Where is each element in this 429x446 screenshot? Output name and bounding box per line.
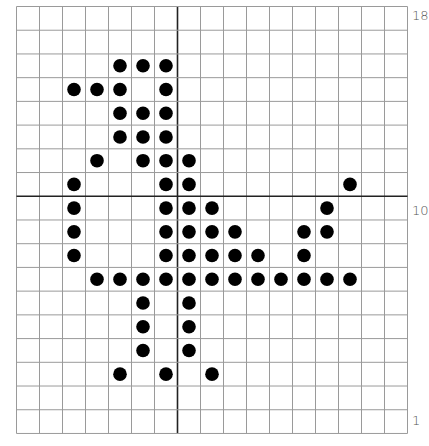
grid-dot <box>159 272 173 286</box>
grid-dot <box>182 154 196 168</box>
grid-dot <box>205 249 219 263</box>
grid-dot <box>159 59 173 73</box>
grid-dot <box>159 178 173 192</box>
grid-dot <box>90 154 104 168</box>
grid-dot <box>159 249 173 263</box>
grid-dot <box>67 178 81 192</box>
grid-dot <box>182 249 196 263</box>
grid-dot <box>182 272 196 286</box>
grid-dot <box>182 320 196 334</box>
dot-grid <box>16 6 409 436</box>
grid-dot <box>274 272 288 286</box>
grid-dot <box>67 83 81 97</box>
grid-dot <box>159 225 173 239</box>
grid-dot <box>90 272 104 286</box>
grid-dot <box>136 154 150 168</box>
grid-dot <box>90 83 104 97</box>
grid-dot <box>297 249 311 263</box>
grid-dot <box>136 296 150 310</box>
grid-dot <box>159 130 173 144</box>
grid-dot <box>297 272 311 286</box>
grid-dot <box>205 367 219 381</box>
grid-dot <box>320 225 334 239</box>
grid-dot <box>182 225 196 239</box>
grid-dot <box>136 130 150 144</box>
grid-dot <box>136 320 150 334</box>
grid-dot <box>113 83 127 97</box>
grid-dot <box>182 178 196 192</box>
row-label-bottom: 1 <box>412 414 420 427</box>
grid-dot <box>320 272 334 286</box>
grid-dot <box>228 225 242 239</box>
grid-dot <box>113 272 127 286</box>
grid-dot <box>251 272 265 286</box>
grid-dot <box>136 344 150 358</box>
grid-dot <box>228 272 242 286</box>
grid-dot <box>205 272 219 286</box>
grid-dot <box>297 225 311 239</box>
grid-dot <box>67 249 81 263</box>
grid-dot <box>113 367 127 381</box>
grid-dot <box>343 272 357 286</box>
grid-dot <box>113 59 127 73</box>
grid-dot <box>182 296 196 310</box>
grid-dot <box>182 201 196 215</box>
grid-dot <box>159 106 173 120</box>
grid-dot <box>113 106 127 120</box>
grid-dot <box>205 225 219 239</box>
grid-dot <box>159 154 173 168</box>
row-label-top: 18 <box>412 9 429 22</box>
grid-dot <box>67 225 81 239</box>
grid-dot <box>136 59 150 73</box>
grid-dot <box>136 106 150 120</box>
grid-dot <box>159 201 173 215</box>
grid-dot <box>159 367 173 381</box>
row-label-middle: 10 <box>412 204 429 217</box>
grid-dot <box>113 130 127 144</box>
grid-dot <box>228 249 242 263</box>
grid-dot <box>251 249 265 263</box>
grid-dot <box>182 344 196 358</box>
grid-dot <box>136 272 150 286</box>
grid-dot <box>159 83 173 97</box>
grid-dot <box>343 178 357 192</box>
grid-dot <box>320 201 334 215</box>
grid-dot <box>67 201 81 215</box>
grid-dot <box>205 201 219 215</box>
